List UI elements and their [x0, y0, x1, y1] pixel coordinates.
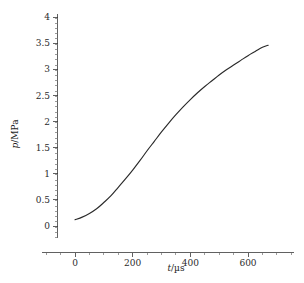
y-tick-label: 0	[44, 221, 50, 231]
y-tick-label: 0.5	[36, 195, 51, 205]
x-tick-label: 600	[239, 258, 256, 268]
x-axis-tick-labels: 0200400600	[72, 258, 257, 268]
y-tick-label: 2.5	[36, 91, 51, 101]
x-tick-label: 200	[124, 258, 141, 268]
data-series-pressure	[75, 45, 268, 220]
y-axis-title: p/MPa	[10, 119, 20, 149]
x-tick-label: 0	[72, 258, 78, 268]
y-tick-label: 1.5	[36, 143, 51, 153]
y-tick-label: 3	[44, 64, 50, 74]
y-tick-label: 3.5	[36, 38, 51, 48]
x-axis-title: t/µs	[167, 263, 185, 273]
y-tick-label: 4	[44, 12, 50, 22]
line-chart: 00.511.522.533.54 0200400600 t/µs p/MPa	[0, 0, 304, 283]
y-tick-label: 1	[44, 169, 50, 179]
chart-figure: 00.511.522.533.54 0200400600 t/µs p/MPa	[0, 0, 304, 283]
y-axis-tick-labels: 00.511.522.533.54	[36, 12, 51, 231]
y-axis-major-ticks	[53, 17, 58, 226]
y-tick-label: 2	[44, 117, 50, 127]
